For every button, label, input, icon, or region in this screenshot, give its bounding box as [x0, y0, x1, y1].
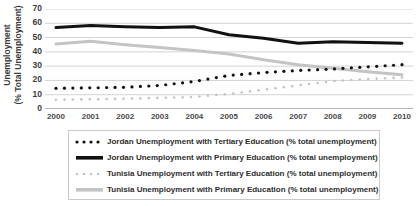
solid-dark-key-icon	[75, 152, 107, 164]
data-point-marker	[198, 95, 201, 98]
data-point-marker	[97, 86, 100, 89]
dotted-light-key	[75, 168, 107, 180]
dotted-light-key-icon	[75, 168, 107, 180]
data-point-marker	[249, 72, 252, 75]
legend-item[interactable]: Jordan Unemployment with Primary Educati…	[69, 150, 379, 166]
data-point-marker	[308, 83, 311, 86]
y-tick-label: 30	[26, 61, 42, 70]
x-tick-label: 2004	[177, 112, 211, 121]
legend-item[interactable]: Tunisia Unemployment with Primary Educat…	[69, 182, 379, 198]
data-point-marker	[358, 66, 361, 69]
data-point-marker	[240, 73, 243, 76]
data-point-marker	[350, 79, 353, 82]
data-point-marker	[164, 83, 167, 86]
data-point-marker	[190, 96, 193, 99]
data-point-marker	[71, 86, 74, 89]
data-point-marker	[308, 68, 311, 71]
x-tick-label: 2000	[39, 112, 73, 121]
data-point-marker	[148, 97, 151, 100]
y-tick-label: 60	[26, 18, 42, 27]
data-point-marker	[392, 64, 395, 67]
data-point-marker	[299, 69, 302, 72]
data-point-marker	[401, 76, 404, 79]
solid-dark-key	[75, 152, 107, 164]
data-point-marker	[291, 69, 294, 72]
data-point-marker	[232, 92, 235, 95]
x-tick-label: 2001	[74, 112, 108, 121]
data-point-marker	[342, 79, 345, 82]
gridlines	[45, 9, 413, 109]
data-point-marker	[282, 70, 285, 73]
x-tick-label: 2003	[143, 112, 177, 121]
data-point-marker	[384, 77, 387, 80]
data-point-marker	[333, 80, 336, 83]
data-point-marker	[274, 87, 277, 90]
data-point-marker	[156, 84, 159, 87]
series-jordan-primary	[56, 25, 402, 43]
data-point-marker	[54, 87, 57, 90]
data-point-marker	[63, 87, 66, 90]
data-point-marker	[240, 91, 243, 94]
data-point-marker	[223, 93, 226, 96]
data-point-marker	[105, 98, 108, 101]
data-series-layer	[54, 25, 403, 101]
y-tick-label: 20	[26, 75, 42, 84]
data-point-marker	[367, 65, 370, 68]
data-point-marker	[274, 70, 277, 73]
data-point-marker	[367, 78, 370, 81]
data-point-marker	[80, 86, 83, 89]
data-point-marker	[283, 86, 286, 89]
data-point-marker	[147, 84, 150, 87]
y-axis-title: Unemployment (% Total Unemployment)	[0, 0, 26, 115]
y-tick-label: 50	[26, 33, 42, 42]
data-point-marker	[400, 63, 403, 66]
y-tick-label: 10	[26, 90, 42, 99]
data-point-marker	[324, 68, 327, 71]
x-tick-label: 2005	[212, 112, 246, 121]
data-point-marker	[384, 64, 387, 67]
data-point-marker	[173, 82, 176, 85]
data-point-marker	[164, 96, 167, 99]
data-point-marker	[375, 65, 378, 68]
data-point-marker	[316, 68, 319, 71]
data-point-marker	[266, 88, 269, 91]
data-point-marker	[80, 98, 83, 101]
data-point-marker	[139, 85, 142, 88]
chart-canvas	[45, 9, 413, 109]
data-point-marker	[359, 78, 362, 81]
legend-item-label: Jordan Unemployment with Primary Educati…	[107, 153, 378, 163]
data-point-marker	[215, 76, 218, 79]
data-point-marker	[257, 71, 260, 74]
data-point-marker	[113, 86, 116, 89]
series-jordan-tertiary	[54, 63, 403, 90]
data-point-marker	[131, 97, 134, 100]
data-point-marker	[181, 96, 184, 99]
legend-item[interactable]: Jordan Unemployment with Tertiary Educat…	[69, 134, 379, 150]
data-point-marker	[249, 90, 252, 93]
data-point-marker	[206, 77, 209, 80]
x-axis-tick-labels: 2000200120022003200420052006200720082009…	[45, 112, 413, 126]
x-tick-label: 2006	[247, 112, 281, 121]
x-tick-label: 2008	[316, 112, 350, 121]
data-point-marker	[350, 66, 353, 69]
data-point-marker	[257, 89, 260, 92]
data-point-marker	[122, 86, 125, 89]
data-point-marker	[173, 96, 176, 99]
data-point-marker	[72, 98, 75, 101]
legend-item[interactable]: Tunisia Unemployment with Tertiary Educa…	[69, 166, 379, 182]
data-point-marker	[333, 67, 336, 70]
x-tick-label: 2002	[108, 112, 142, 121]
y-axis-title-line2: (% Total Unemployment)	[13, 5, 24, 104]
data-point-marker	[223, 75, 226, 78]
series-tunisia-primary	[56, 41, 402, 75]
legend-item-label: Jordan Unemployment with Tertiary Educat…	[107, 137, 377, 147]
data-point-marker	[198, 79, 201, 82]
data-point-marker	[139, 97, 142, 100]
data-point-marker	[207, 94, 210, 97]
y-axis-tick-labels: 706050403020100	[24, 9, 42, 109]
plot-area	[45, 9, 413, 109]
data-point-marker	[299, 84, 302, 87]
legend-item-label: Tunisia Unemployment with Tertiary Educa…	[107, 169, 377, 179]
data-point-marker	[97, 98, 100, 101]
data-point-marker	[375, 77, 378, 80]
